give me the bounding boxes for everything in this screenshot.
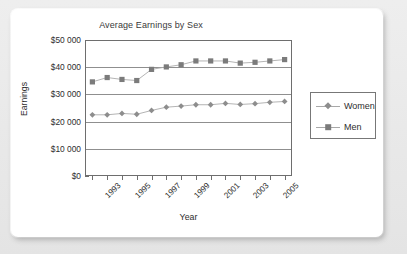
x-axis-tick-label: 2001 [222, 181, 241, 200]
data-point [149, 108, 155, 114]
data-point [238, 61, 243, 66]
x-axis-tick-label: 1999 [192, 181, 211, 200]
data-point [208, 58, 213, 63]
series-layer [85, 40, 292, 176]
x-axis-tick-label: 1995 [133, 181, 152, 200]
legend-label: Women [344, 101, 375, 111]
y-axis-tick-label: $20 000 [21, 117, 81, 127]
y-axis-tick-label: $30 000 [21, 89, 81, 99]
x-axis-tick-mark [107, 176, 108, 180]
square-marker-icon [315, 121, 341, 133]
y-axis-tick-label: $0 [21, 171, 81, 181]
data-point [252, 101, 258, 107]
y-axis-tick-label: $10 000 [21, 144, 81, 154]
data-point [90, 79, 95, 84]
x-axis-tick-label: 1997 [163, 181, 182, 200]
chart-legend: WomenMen [310, 92, 376, 139]
data-point [105, 75, 110, 80]
x-axis-tick-label: 2005 [281, 181, 300, 200]
x-axis-tick-label: 1993 [104, 181, 123, 200]
legend-item-women[interactable]: Women [311, 95, 375, 117]
data-point [282, 57, 287, 62]
x-axis-tick-mark [196, 176, 197, 180]
series-women [89, 99, 287, 118]
screenshot-stage: Average Earnings by Sex Earnings $0$10 0… [0, 0, 407, 254]
data-point [119, 111, 125, 117]
chart-card: Average Earnings by Sex Earnings $0$10 0… [11, 9, 383, 237]
data-point [179, 62, 184, 67]
x-axis-tick-mark [152, 176, 153, 180]
y-axis-tick-label: $50 000 [21, 35, 81, 45]
data-point [134, 78, 139, 83]
data-point [178, 103, 184, 109]
x-axis-tick-mark [166, 176, 167, 180]
x-axis-title: Year [85, 212, 292, 222]
legend-item-men[interactable]: Men [311, 116, 375, 138]
x-axis-tick-label: 2003 [252, 181, 271, 200]
legend-marker [324, 102, 332, 110]
data-point [282, 99, 288, 105]
data-point [252, 60, 257, 65]
y-axis-tick-label: $40 000 [21, 62, 81, 72]
x-axis-tick-mark [225, 176, 226, 180]
x-axis-tick-mark [270, 176, 271, 180]
legend-marker [325, 124, 331, 130]
x-axis-tick-mark [211, 176, 212, 180]
data-point [149, 67, 154, 72]
x-axis-tick-mark [137, 176, 138, 180]
x-axis-tick-mark [92, 176, 93, 180]
data-point [89, 112, 95, 118]
diamond-marker-icon [315, 100, 341, 112]
data-point [237, 102, 243, 108]
chart-title: Average Earnings by Sex [11, 20, 291, 30]
data-point [193, 102, 199, 108]
data-point [208, 102, 214, 108]
x-axis-tick-mark [285, 176, 286, 180]
data-point [193, 58, 198, 63]
data-point [104, 112, 110, 118]
x-axis-tick-mark [122, 176, 123, 180]
series-men [90, 57, 287, 85]
data-point [267, 58, 272, 63]
data-point [163, 104, 169, 110]
x-axis-tick-mark [255, 176, 256, 180]
chart-figure: Average Earnings by Sex Earnings $0$10 0… [11, 9, 383, 237]
data-point [164, 64, 169, 69]
x-axis-tick-mark [181, 176, 182, 180]
data-point [267, 99, 273, 105]
x-axis-tick-labels: 1993199519971999200120032005 [85, 181, 300, 211]
data-point [119, 77, 124, 82]
x-axis-tick-mark [240, 176, 241, 180]
legend-label: Men [344, 122, 362, 132]
y-axis-tick-labels: $0$10 000$20 000$30 000$40 000$50 000 [17, 40, 81, 176]
data-point [223, 100, 229, 106]
data-point [223, 58, 228, 63]
data-point [134, 111, 140, 117]
